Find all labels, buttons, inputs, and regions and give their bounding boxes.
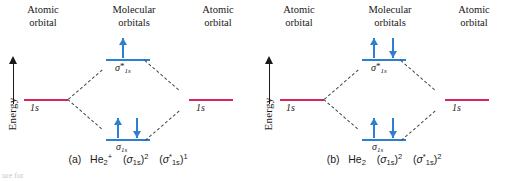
correlation-line-right-upper <box>144 60 179 90</box>
electron-arrow-antibonding-down-b <box>388 38 397 58</box>
column-header-left-atomic-orbital-b: Atomic orbital <box>262 4 336 29</box>
energy-axis-label-b: Energy <box>262 84 274 144</box>
column-header-right-atomic-orbital-b: Atomic orbital <box>438 4 510 29</box>
energy-axis-b: Energy <box>258 56 280 162</box>
antibonding-orbital-label: σ*1s <box>115 61 131 75</box>
arrow-head-up-icon <box>119 38 127 45</box>
electron-arrow-bonding-up-b <box>369 118 378 138</box>
correlation-line-right-upper-b <box>400 60 435 90</box>
atomic-orbital-label-left: 1s <box>30 102 39 113</box>
correlation-line-left-upper-b <box>324 69 359 99</box>
panel-b-caption: (b) He2 (σ1s)2 (σ*1s)2 <box>256 152 512 167</box>
arrow-head-up-icon <box>370 38 378 45</box>
energy-axis-label: Energy <box>6 84 18 144</box>
arrow-head-up-icon <box>370 118 378 125</box>
mo-diagram-panel-a: Atomic orbital Molecular orbitals Atomic… <box>0 0 256 181</box>
electron-arrow-antibonding-up <box>118 38 127 58</box>
mo-diagram-panel-b: Atomic orbital Molecular orbitals Atomic… <box>256 0 512 181</box>
column-header-molecular-orbitals: Molecular orbitals <box>88 4 180 29</box>
atomic-orbital-label-left-b: 1s <box>286 102 295 113</box>
correlation-line-right-lower <box>145 110 180 140</box>
arrow-head-down-icon <box>389 51 397 58</box>
atomic-orbital-label-right-b: 1s <box>452 102 461 113</box>
electron-arrow-antibonding-up-b <box>369 38 378 58</box>
correlation-line-left-upper <box>68 69 103 99</box>
column-header-right-atomic-orbital: Atomic orbital <box>182 4 254 29</box>
atomic-orbital-level-left <box>24 99 68 101</box>
atomic-orbital-level-left-b <box>280 99 324 101</box>
atomic-orbital-level-right <box>189 99 233 101</box>
energy-axis: Energy <box>2 56 24 162</box>
arrow-head-down-icon <box>389 131 397 138</box>
correlation-line-left-lower <box>67 99 102 129</box>
antibonding-orbital-label-b: σ*1s <box>371 61 387 75</box>
cropped-footer-text: ure for <box>2 171 24 181</box>
bonding-orbital-level <box>106 139 150 141</box>
column-header-left-atomic-orbital: Atomic orbital <box>6 4 80 29</box>
electron-arrow-bonding-up <box>113 118 122 138</box>
atomic-orbital-label-right: 1s <box>196 102 205 113</box>
arrow-head-up-icon <box>114 118 122 125</box>
bonding-orbital-level-b <box>362 139 406 141</box>
column-header-molecular-orbitals-b: Molecular orbitals <box>344 4 436 29</box>
arrow-head-down-icon <box>133 131 141 138</box>
atomic-orbital-level-right-b <box>445 99 489 101</box>
electron-arrow-bonding-down-b <box>388 118 397 138</box>
correlation-line-right-lower-b <box>401 110 436 140</box>
correlation-line-left-lower-b <box>323 99 358 129</box>
electron-arrow-bonding-down <box>132 118 141 138</box>
panel-a-caption: (a) He2+ (σ1s)2 (σ*1s)1 <box>0 152 256 167</box>
